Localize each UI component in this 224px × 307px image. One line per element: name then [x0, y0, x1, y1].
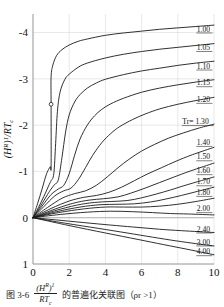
curve-label-1.05: 1.05: [197, 43, 210, 52]
x-tick-2: 2: [66, 266, 72, 278]
curve-label-1.00: 1.00: [197, 25, 210, 34]
curve-label-1.40: 1.40: [197, 138, 210, 147]
curve-label-1.10: 1.10: [197, 62, 210, 71]
y-axis-title: (HR)1/RTc: [2, 120, 14, 159]
caption-tail: 的普遍化关联图（ρr >1）: [62, 288, 162, 301]
x-tick-0: 0: [30, 266, 36, 278]
x-tick-8: 8: [175, 266, 181, 278]
curve-end-labels: 1.001.051.101.151.20Tr= 1.301.401.501.60…: [182, 25, 214, 257]
x-axis-tick-labels: 0246810: [30, 266, 220, 278]
curve-label-1.50: 1.50: [197, 152, 210, 161]
curve-label-1.20: 1.20: [197, 95, 210, 104]
y-tick-1: 1: [23, 258, 29, 270]
axis-titles: pr(HR)1/RTc: [2, 120, 128, 280]
y-tick-0: 0: [23, 212, 29, 224]
curve-label-3.00: 3.00: [197, 238, 210, 247]
x-tick-6: 6: [139, 266, 145, 278]
curve-tr-3.00: [33, 218, 214, 246]
curve-label-1.70: 1.70: [197, 177, 210, 186]
y-tick--1: -1: [19, 165, 28, 177]
curve-tr-1.05: [33, 44, 214, 218]
x-tick-4: 4: [103, 266, 109, 278]
caption-fraction: (HR)1 RTc: [34, 283, 56, 307]
figure-container: 0246810 -4-3-2-101 1.001.051.101.151.20T…: [0, 0, 224, 307]
caption-fraction-numerator: (HR)1: [34, 283, 56, 292]
caption-number: 图 3-6: [6, 288, 29, 301]
y-tick--2: -2: [19, 119, 28, 131]
curve-tr-2.40: [33, 218, 214, 233]
y-tick--3: -3: [19, 73, 29, 85]
curve-label-2.40: 2.40: [197, 225, 210, 234]
curve-lines: [33, 25, 214, 255]
curve-tr-4.00: [33, 218, 214, 255]
critical-point-marker: [49, 102, 53, 106]
x-tick-10: 10: [209, 266, 221, 278]
figure-caption: 图 3-6 (HR)1 RTc 的普遍化关联图（ρr >1）: [0, 283, 224, 307]
curve-tr-1.70: [33, 187, 214, 218]
curve-label-1.15: 1.15: [197, 78, 210, 87]
caption-fraction-denominator: RTc: [37, 295, 53, 306]
y-axis-tick-labels: -4-3-2-101: [19, 26, 29, 269]
curve-label-2.00: 2.00: [197, 204, 210, 213]
critical-point-icon: [49, 102, 53, 106]
curve-label-1.60: 1.60: [197, 166, 210, 175]
y-tick--4: -4: [19, 26, 29, 38]
curve-label-4.00: 4.00: [197, 247, 210, 256]
x-axis-title: pr: [119, 279, 128, 280]
curve-label-1.30: Tr= 1.30: [182, 117, 209, 126]
curve-label-1.80: 1.80: [197, 188, 210, 197]
chart-canvas: 0246810 -4-3-2-101 1.001.051.101.151.20T…: [0, 0, 224, 280]
curve-tr-1.15: [33, 80, 214, 218]
